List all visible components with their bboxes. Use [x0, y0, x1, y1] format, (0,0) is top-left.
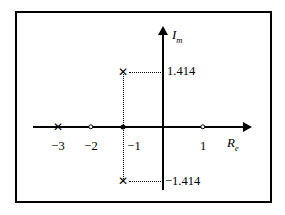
imaginary-axis-line [162, 33, 164, 190]
x-tick-label-minus3: −3 [51, 140, 64, 153]
pole-marker-minus3: ✕ [53, 121, 63, 133]
pole-marker-lower-complex: ✕ [118, 175, 128, 187]
real-axis-line [33, 126, 247, 128]
dotted-leader-lower [129, 181, 163, 182]
origin-dot-marker-minus1 [121, 125, 126, 130]
imaginary-axis-arrow-icon [158, 26, 168, 35]
x-tick-label-minus1: −1 [127, 140, 140, 153]
pole-marker-upper-complex: ✕ [118, 66, 128, 78]
x-tick-label-plus1: 1 [200, 140, 206, 153]
x-tick-label-minus2: −2 [84, 140, 97, 153]
real-axis-label: Re [227, 136, 239, 152]
complex-plane-pole-zero-figure: Im Re ✕ ✕ ✕ −3 −2 −1 1 1.414 −1.414 [0, 0, 285, 215]
zero-marker-minus2 [88, 124, 93, 129]
imaginary-axis-label: Im [172, 28, 182, 44]
zero-marker-plus1 [200, 124, 205, 129]
imag-value-label-negative: −1.414 [165, 175, 200, 188]
dotted-leader-upper [129, 72, 163, 73]
imag-value-label-positive: 1.414 [167, 65, 195, 78]
plot-area: Im Re ✕ ✕ ✕ −3 −2 −1 1 1.414 −1.414 [0, 0, 285, 215]
real-axis-arrow-icon [243, 122, 252, 132]
